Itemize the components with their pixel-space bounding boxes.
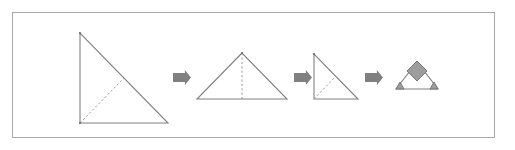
right-arrow-icon: [365, 70, 383, 85]
step-3-apex-vertex: [313, 53, 315, 55]
arrow-step-2-to-3: [294, 70, 312, 85]
step-1-large-right-triangle: [79, 32, 168, 124]
figure-canvas: [0, 0, 515, 150]
step-4-top-diamond-flap: [407, 61, 427, 81]
step-4-bottom-left-flap: [396, 82, 404, 89]
arrow-step-1-to-2: [173, 70, 191, 85]
step-4-bottom-right-flap: [430, 82, 438, 89]
step-3-small-right-triangle: [313, 53, 358, 99]
step-1-apex-vertex: [79, 32, 81, 34]
step-1-bottom-left-vertex: [79, 122, 81, 124]
step-2-apex-vertex: [241, 52, 243, 54]
right-arrow-icon: [294, 70, 312, 85]
step-3-fold-line: [314, 76, 336, 99]
step-4-folded-triangle: [396, 61, 438, 89]
step-2-isosceles-triangle: [197, 52, 287, 99]
figure-root: [0, 0, 515, 150]
arrow-step-3-to-4: [365, 70, 383, 85]
right-arrow-icon: [173, 70, 191, 85]
step-1-fold-line: [80, 78, 124, 123]
